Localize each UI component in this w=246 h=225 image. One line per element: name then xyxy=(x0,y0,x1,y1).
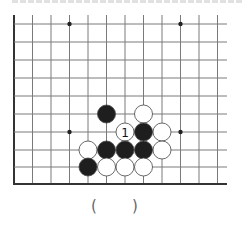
star-point-icon xyxy=(67,130,71,134)
star-point-icon xyxy=(178,22,182,26)
white-stone-icon xyxy=(135,158,153,176)
star-point-icon xyxy=(178,130,182,134)
white-stone-icon xyxy=(153,141,171,159)
white-stone-icon xyxy=(116,158,134,176)
black-stone-icon xyxy=(116,141,134,159)
left-parenthesis: ( xyxy=(91,197,97,215)
black-stone-icon xyxy=(135,123,153,141)
white-stone-icon xyxy=(135,105,153,123)
black-stone-icon xyxy=(98,105,116,123)
black-stone-icon xyxy=(79,158,97,176)
grid-lines xyxy=(13,15,227,184)
star-point-icon xyxy=(67,22,71,26)
white-stone-icon xyxy=(79,141,97,159)
black-stone-icon xyxy=(98,141,116,159)
answer-blank: ( ) xyxy=(0,197,246,219)
white-stone-icon xyxy=(153,123,171,141)
white-stone-icon xyxy=(98,158,116,176)
move-number-label: 1 xyxy=(121,126,129,140)
go-board: 1 xyxy=(0,0,246,195)
right-parenthesis: ) xyxy=(132,197,138,215)
black-stone-icon xyxy=(135,141,153,159)
